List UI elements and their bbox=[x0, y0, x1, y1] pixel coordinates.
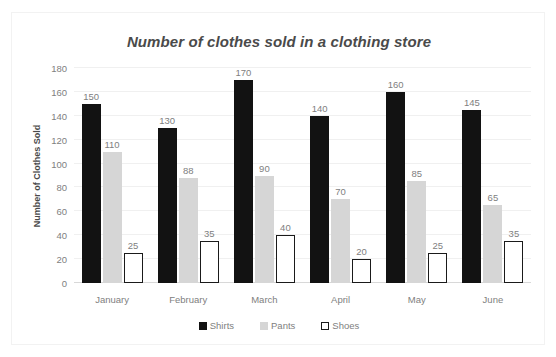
bar-rect[interactable] bbox=[331, 199, 350, 283]
bar-shoes[interactable]: 25 bbox=[428, 68, 447, 283]
bar-value-label: 35 bbox=[204, 228, 215, 239]
bar-shirts[interactable]: 145 bbox=[462, 68, 481, 283]
x-axis-tick-label: April bbox=[303, 294, 379, 305]
bar-shirts[interactable]: 170 bbox=[234, 68, 253, 283]
bar-shoes[interactable]: 35 bbox=[504, 68, 523, 283]
bar-rect[interactable] bbox=[158, 128, 177, 283]
bar-group: 1308835February bbox=[150, 68, 226, 283]
bar-value-label: 25 bbox=[128, 240, 139, 251]
bar-value-label: 70 bbox=[335, 186, 346, 197]
bar-rect[interactable] bbox=[310, 116, 329, 283]
x-axis-tick-label: June bbox=[455, 294, 531, 305]
bar-pants[interactable]: 88 bbox=[179, 68, 198, 283]
bar-rect[interactable] bbox=[407, 181, 426, 283]
bar-group: 1407020April bbox=[303, 68, 379, 283]
bar-value-label: 85 bbox=[411, 168, 422, 179]
bar-shirts[interactable]: 130 bbox=[158, 68, 177, 283]
bar-rect[interactable] bbox=[352, 259, 371, 283]
bar-pants[interactable]: 85 bbox=[407, 68, 426, 283]
legend-swatch-icon bbox=[321, 322, 329, 330]
plot-area: 02040608010012014016018015011025January1… bbox=[74, 68, 531, 283]
bar-value-label: 25 bbox=[432, 240, 443, 251]
bar-value-label: 170 bbox=[235, 67, 251, 78]
legend-item-shirts[interactable]: Shirts bbox=[199, 320, 234, 331]
y-axis-tick-label: 80 bbox=[56, 182, 67, 193]
y-axis-tick-label: 120 bbox=[51, 134, 67, 145]
bar-group: 15011025January bbox=[74, 68, 150, 283]
bar-rect[interactable] bbox=[504, 241, 523, 283]
bar-group: 1709040March bbox=[226, 68, 302, 283]
y-axis-tick-label: 140 bbox=[51, 110, 67, 121]
x-axis-tick-label: February bbox=[150, 294, 226, 305]
y-axis-title-label: Number of Clothes Sold bbox=[32, 124, 42, 227]
bar-value-label: 20 bbox=[356, 246, 367, 257]
bar-rect[interactable] bbox=[276, 235, 295, 283]
legend-item-pants[interactable]: Pants bbox=[260, 320, 295, 331]
y-axis-tick-label: 180 bbox=[51, 63, 67, 74]
bar-rect[interactable] bbox=[234, 80, 253, 283]
bar-rect[interactable] bbox=[255, 176, 274, 284]
bar-rect[interactable] bbox=[103, 152, 122, 283]
bar-value-label: 88 bbox=[183, 165, 194, 176]
bar-rect[interactable] bbox=[200, 241, 219, 283]
legend-label: Shoes bbox=[332, 320, 359, 331]
bar-pants[interactable]: 65 bbox=[483, 68, 502, 283]
bar-shirts[interactable]: 160 bbox=[386, 68, 405, 283]
bar-group: 1608525May bbox=[379, 68, 455, 283]
bar-value-label: 160 bbox=[388, 79, 404, 90]
bar-value-label: 90 bbox=[259, 163, 270, 174]
chart-container: Number of clothes sold in a clothing sto… bbox=[11, 12, 545, 345]
bar-shirts[interactable]: 140 bbox=[310, 68, 329, 283]
bar-pants[interactable]: 90 bbox=[255, 68, 274, 283]
bar-rect[interactable] bbox=[462, 110, 481, 283]
bar-value-label: 40 bbox=[280, 222, 291, 233]
bar-value-label: 110 bbox=[105, 139, 120, 150]
bar-rect[interactable] bbox=[124, 253, 143, 283]
chart-legend: ShirtsPantsShoes bbox=[12, 320, 546, 331]
bar-group: 1456535June bbox=[455, 68, 531, 283]
bar-value-label: 150 bbox=[83, 91, 99, 102]
x-axis-tick-label: May bbox=[379, 294, 455, 305]
y-axis-tick-label: 160 bbox=[51, 86, 67, 97]
y-axis-title: Number of Clothes Sold bbox=[30, 68, 44, 283]
x-axis-tick-label: January bbox=[74, 294, 150, 305]
x-axis-tick-label: March bbox=[226, 294, 302, 305]
bar-value-label: 35 bbox=[509, 228, 520, 239]
legend-label: Pants bbox=[271, 320, 295, 331]
bar-rect[interactable] bbox=[428, 253, 447, 283]
y-axis-tick-label: 100 bbox=[51, 158, 67, 169]
bar-rect[interactable] bbox=[483, 205, 502, 283]
y-axis-tick-label: 60 bbox=[56, 206, 67, 217]
bar-pants[interactable]: 110 bbox=[103, 68, 122, 283]
bar-shoes[interactable]: 20 bbox=[352, 68, 371, 283]
y-axis-tick-label: 0 bbox=[62, 278, 67, 289]
bar-value-label: 140 bbox=[312, 103, 328, 114]
legend-swatch-icon bbox=[260, 322, 268, 330]
bar-rect[interactable] bbox=[386, 92, 405, 283]
bar-pants[interactable]: 70 bbox=[331, 68, 350, 283]
bar-shoes[interactable]: 35 bbox=[200, 68, 219, 283]
bar-rect[interactable] bbox=[179, 178, 198, 283]
bar-value-label: 130 bbox=[159, 115, 175, 126]
bar-value-label: 65 bbox=[488, 192, 499, 203]
legend-label: Shirts bbox=[210, 320, 234, 331]
bar-shoes[interactable]: 40 bbox=[276, 68, 295, 283]
y-axis-tick-label: 20 bbox=[56, 254, 67, 265]
bar-shirts[interactable]: 150 bbox=[82, 68, 101, 283]
bar-shoes[interactable]: 25 bbox=[124, 68, 143, 283]
legend-item-shoes[interactable]: Shoes bbox=[321, 320, 359, 331]
y-axis-tick-label: 40 bbox=[56, 230, 67, 241]
bar-value-label: 145 bbox=[464, 97, 480, 108]
bar-rect[interactable] bbox=[82, 104, 101, 283]
legend-swatch-icon bbox=[199, 322, 207, 330]
chart-title: Number of clothes sold in a clothing sto… bbox=[12, 33, 546, 50]
